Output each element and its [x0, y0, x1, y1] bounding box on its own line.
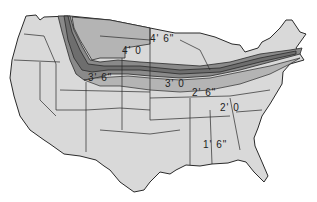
- label-depth-3-0: 3' 0: [165, 79, 185, 89]
- label-depth-2-0: 2' 0: [220, 103, 240, 113]
- label-depth-4-6: 4' 6": [150, 34, 174, 44]
- label-depth-4-0: 4' 0: [122, 46, 142, 56]
- us-frost-line-map: [0, 0, 317, 202]
- label-depth-1-6: 1' 6": [203, 140, 227, 150]
- label-depth-3-6: 3' 6": [88, 73, 112, 83]
- label-depth-2-6: 2' 6": [192, 88, 216, 98]
